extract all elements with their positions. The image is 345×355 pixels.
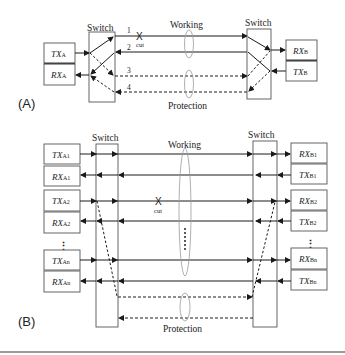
working-label: Working bbox=[170, 20, 203, 30]
tx-a-box: TXA bbox=[44, 43, 75, 63]
tx-b1-box: TXB1 bbox=[291, 164, 327, 184]
rx-bn-box: RXBn bbox=[291, 248, 327, 269]
switch-left-box bbox=[96, 144, 118, 327]
protection-group-ellipse bbox=[185, 70, 194, 98]
protection-label: Protection bbox=[168, 101, 207, 111]
panel-b-label: (B) bbox=[18, 314, 35, 329]
tx-a2-box: TXA2 bbox=[44, 190, 80, 211]
tx-bn-box: TXBn bbox=[291, 270, 327, 290]
panel-a-label: (A) bbox=[18, 96, 35, 111]
svg-text:4: 4 bbox=[127, 83, 131, 92]
switch-left-label: Switch bbox=[92, 133, 119, 143]
switch-right-label: Switch bbox=[248, 130, 275, 140]
working-group-ellipse bbox=[179, 148, 191, 276]
switch-left-label: Switch bbox=[87, 23, 114, 33]
channel-ellipsis-dots bbox=[184, 228, 186, 250]
protection-label: Protection bbox=[163, 324, 202, 334]
switch-right-box bbox=[253, 141, 277, 327]
svg-text:1: 1 bbox=[127, 26, 131, 35]
rx-b-box: RXB bbox=[286, 40, 317, 60]
rx-b2-box: RXB2 bbox=[291, 190, 327, 210]
switch-right-label: Switch bbox=[245, 18, 272, 28]
tx-b-box: TXB bbox=[286, 61, 317, 81]
tx-b2-box: TXB2 bbox=[291, 211, 327, 231]
panel-b: (B) Switch Switch TXA1 RXA1 TXA2 RXA2 ⋮ … bbox=[18, 130, 327, 334]
diagram-canvas: (A) Switch TXA RXA 1 2 bbox=[0, 0, 345, 355]
cut-label: cut bbox=[136, 41, 144, 48]
rx-a1-box: RXA1 bbox=[44, 166, 80, 186]
cut-marker: X cut bbox=[136, 31, 144, 48]
bottom-divider bbox=[0, 351, 345, 353]
rx-an-box: RXAn bbox=[44, 271, 80, 292]
line-4-protection: 4 bbox=[116, 83, 247, 92]
svg-text:2: 2 bbox=[127, 43, 131, 52]
tx-a1-box: TXA1 bbox=[44, 144, 80, 164]
switch-right-box bbox=[247, 29, 271, 99]
panel-a: (A) Switch TXA RXA 1 2 bbox=[18, 18, 317, 111]
tx-an-box: TXAn bbox=[44, 250, 80, 270]
switch-left-box bbox=[89, 32, 115, 102]
cut-marker: X cut bbox=[154, 196, 162, 214]
cut-x-icon: X bbox=[155, 196, 162, 207]
cut-label: cut bbox=[154, 207, 162, 214]
rx-a2-box: RXA2 bbox=[44, 212, 80, 233]
rx-a-box: RXA bbox=[44, 64, 75, 85]
protection-switching-diagram: (A) Switch TXA RXA 1 2 bbox=[0, 0, 345, 355]
svg-text:3: 3 bbox=[127, 66, 131, 75]
line-3-protection: 3 bbox=[115, 66, 247, 76]
working-group-ellipse bbox=[185, 30, 194, 58]
working-label: Working bbox=[168, 140, 201, 150]
rx-b1-box: RXB1 bbox=[291, 143, 327, 163]
working-channels bbox=[80, 154, 291, 281]
